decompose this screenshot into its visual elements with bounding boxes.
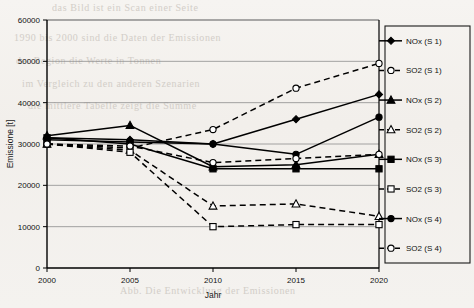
legend-item-nox-s-2[interactable]: NOx (S 2) [379, 96, 442, 105]
marker-open-circle [44, 141, 50, 147]
x-tick-label: 2005 [121, 276, 139, 285]
y-tick-label: 30000 [18, 140, 41, 149]
marker-filled-square [293, 166, 299, 172]
marker-filled-circle [210, 141, 216, 147]
legend-label: NOx (S 4) [406, 215, 442, 224]
marker-open-circle [293, 85, 299, 91]
y-tick-label: 60000 [18, 16, 41, 25]
marker-filled-diamond [293, 116, 300, 123]
chart-canvas: 0100002000030000400005000060000200020052… [0, 0, 474, 308]
legend-label: NOx (S 1) [406, 37, 442, 46]
marker-open-circle [210, 126, 216, 132]
y-tick-label: 40000 [18, 99, 41, 108]
marker-open-square [293, 222, 299, 228]
legend: NOx (S 1)SO2 (S 1)NOx (S 2)SO2 (S 2)NOx … [379, 26, 470, 263]
marker-filled-circle [388, 215, 394, 221]
marker-filled-triangle [126, 121, 134, 128]
y-axis-title: Emissione [t] [5, 120, 15, 169]
legend-label: SO2 (S 2) [406, 126, 442, 135]
marker-open-circle [210, 160, 216, 166]
y-tick-label: 50000 [18, 57, 41, 66]
legend-item-so2-s-2[interactable]: SO2 (S 2) [379, 126, 442, 135]
marker-open-circle [376, 151, 382, 157]
legend-item-nox-s-4[interactable]: NOx (S 4) [379, 215, 442, 224]
marker-filled-diamond [388, 37, 395, 44]
legend-box [385, 26, 470, 263]
y-tick-label: 10000 [18, 223, 41, 232]
series-so2-s-2 [43, 140, 383, 220]
marker-open-circle [388, 245, 394, 251]
marker-open-square [127, 149, 133, 155]
series-so2-s-1 [44, 60, 382, 151]
x-tick-label: 2010 [204, 276, 222, 285]
series-nox-s-4 [44, 114, 382, 157]
marker-open-square [388, 186, 394, 192]
x-tick-label: 2000 [38, 276, 56, 285]
marker-filled-square [210, 166, 216, 172]
marker-open-circle [127, 143, 133, 149]
legend-label: NOx (S 3) [406, 155, 442, 164]
legend-item-so2-s-3[interactable]: SO2 (S 3) [379, 185, 442, 194]
legend-label: SO2 (S 1) [406, 66, 442, 75]
legend-item-so2-s-1[interactable]: SO2 (S 1) [379, 66, 442, 75]
x-ticks: 20002005201020152020 [38, 268, 388, 285]
y-tick-label: 0 [36, 264, 41, 273]
marker-open-circle [388, 67, 394, 73]
marker-open-circle [293, 155, 299, 161]
series-group [43, 60, 383, 229]
marker-filled-diamond [376, 91, 383, 98]
y-tick-label: 20000 [18, 181, 41, 190]
marker-open-square [210, 224, 216, 230]
marker-open-circle [376, 60, 382, 66]
legend-item-nox-s-1[interactable]: NOx (S 1) [379, 37, 442, 46]
x-tick-label: 2020 [370, 276, 388, 285]
legend-item-nox-s-3[interactable]: NOx (S 3) [379, 155, 442, 164]
x-tick-label: 2015 [287, 276, 305, 285]
x-axis-title: Jahr [205, 290, 222, 300]
legend-label: NOx (S 2) [406, 96, 442, 105]
legend-label: SO2 (S 3) [406, 185, 442, 194]
legend-item-so2-s-4[interactable]: SO2 (S 4) [379, 244, 442, 253]
emissions-line-chart: 0100002000030000400005000060000200020052… [0, 0, 474, 308]
marker-open-square [376, 222, 382, 228]
series-line [47, 94, 379, 144]
marker-filled-circle [376, 114, 382, 120]
series-line [47, 63, 379, 148]
legend-label: SO2 (S 4) [406, 244, 442, 253]
marker-filled-square [388, 156, 394, 162]
marker-filled-square [376, 166, 382, 172]
